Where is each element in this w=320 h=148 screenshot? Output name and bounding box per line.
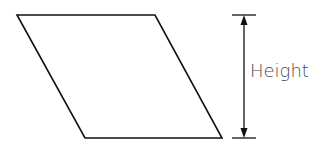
arrow-up-icon xyxy=(241,15,248,25)
height-dimension: Height xyxy=(232,15,309,138)
height-label: Height xyxy=(250,60,309,81)
arrow-down-icon xyxy=(241,128,248,138)
parallelogram xyxy=(17,15,222,138)
parallelogram-diagram: Height xyxy=(0,0,320,148)
